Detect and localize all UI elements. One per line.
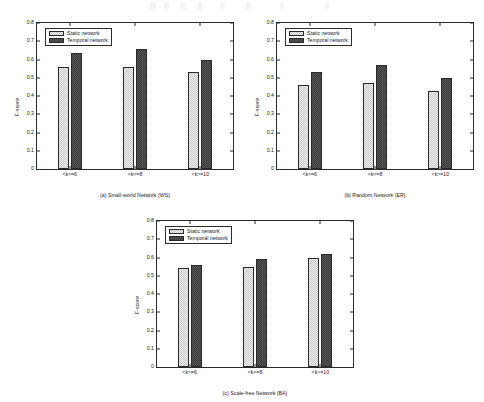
y-tick-label-c-2: 0.2 [147,328,157,333]
x-tick-label-a-0: <k>=6 [62,172,77,177]
subplot-caption-a: (a) Small-world Network (WS) [36,193,234,198]
subplot-c: F-score 00.10.20.30.40.50.60.70.8<k>=6<k… [128,212,360,398]
y-axis-label-a: F-score [14,98,20,116]
legend-item-static-b: Static network [289,31,348,36]
legend-label-temporal-c: Temporal network [187,236,228,241]
bar-c-temporal-1 [256,259,267,367]
plot-area-b: 00.10.20.30.40.50.60.70.8<k>=6<k>=8<k>=1… [276,22,474,170]
bar-a-temporal-2 [201,60,212,169]
x-tick-mark-top-a-2 [200,23,201,26]
y-tick-label-a-4: 0.4 [27,93,37,98]
y-tick-mark-a-8 [37,23,40,24]
x-tick-label-c-1: <k>=8 [248,370,263,375]
legend-label-static-c: Static network [187,229,220,234]
y-tick-label-a-0: 0 [31,166,37,171]
y-tick-label-b-8: 0.8 [267,20,277,25]
legend-item-temporal-a: Temporal network [49,38,108,43]
y-tick-label-b-3: 0.3 [267,112,277,117]
y-tick-mark-c-3 [157,312,160,313]
legend-swatch-temporal-c [169,236,184,241]
y-tick-mark-b-8 [277,23,280,24]
y-tick-mark-b-6 [277,59,280,60]
y-tick-mark-a-2 [37,132,40,133]
y-tick-label-c-4: 0.4 [147,291,157,296]
bar-c-static-1 [243,267,254,367]
legend-label-temporal-b: Temporal network [307,38,348,43]
y-tick-mark-a-3 [37,114,40,115]
y-tick-label-b-6: 0.6 [267,57,277,62]
legend-label-static-a: Static network [67,31,100,36]
y-tick-mark-b-7 [277,41,280,42]
y-tick-mark-a-5 [37,77,40,78]
y-tick-mark-c-1 [350,348,353,349]
bar-b-temporal-0 [311,72,322,169]
x-tick-mark-top-c-0 [189,221,190,224]
subplot-b: F-score 00.10.20.30.40.50.60.70.8<k>=6<k… [248,14,480,200]
x-tick-mark-a-1 [135,166,136,169]
legend-swatch-temporal-b [289,38,304,43]
y-tick-label-b-5: 0.5 [267,75,277,80]
y-tick-mark-a-6 [37,59,40,60]
y-tick-label-b-1: 0.1 [267,148,277,153]
y-tick-mark-b-4 [277,96,280,97]
y-tick-label-a-6: 0.6 [27,57,37,62]
bar-a-static-2 [188,72,199,169]
y-tick-mark-b-1 [470,150,473,151]
y-tick-mark-c-7 [157,239,160,240]
legend-a: Static networkTemporal network [45,28,112,46]
x-tick-label-a-1: <k>=8 [128,172,143,177]
y-tick-mark-b-6 [470,59,473,60]
plot-area-a: 00.10.20.30.40.50.60.70.8<k>=6<k>=8<k>=1… [36,22,234,170]
y-tick-label-b-2: 0.2 [267,130,277,135]
x-tick-mark-top-b-1 [375,23,376,26]
legend-item-temporal-c: Temporal network [169,236,228,241]
y-tick-label-c-5: 0.5 [147,273,157,278]
y-tick-mark-b-3 [470,114,473,115]
y-tick-mark-a-7 [230,41,233,42]
y-tick-label-c-7: 0.7 [147,237,157,242]
bar-b-static-2 [428,91,439,169]
y-tick-mark-a-1 [230,150,233,151]
y-tick-mark-a-7 [37,41,40,42]
legend-item-temporal-b: Temporal network [289,38,348,43]
x-tick-mark-b-1 [375,166,376,169]
bar-c-temporal-0 [191,265,202,367]
bar-c-static-2 [308,258,319,368]
y-tick-mark-b-4 [470,96,473,97]
x-tick-label-c-2: <k>=10 [312,370,329,375]
y-tick-mark-b-1 [277,150,280,151]
y-tick-label-a-7: 0.7 [27,39,37,44]
y-tick-mark-c-2 [157,330,160,331]
x-tick-mark-top-b-0 [309,23,310,26]
bar-a-temporal-0 [71,53,82,169]
y-tick-mark-b-8 [470,23,473,24]
x-tick-mark-c-0 [189,364,190,367]
bar-c-temporal-2 [321,254,332,367]
x-tick-mark-c-2 [320,364,321,367]
y-tick-mark-c-8 [157,221,160,222]
bar-b-temporal-1 [376,65,387,169]
y-tick-mark-a-5 [230,77,233,78]
subplot-caption-b: (b) Random Network (ER) [276,193,474,198]
y-tick-label-a-1: 0.1 [27,148,37,153]
figure-container: F-score 00.10.20.30.40.50.60.70.8<k>=6<k… [0,0,484,402]
y-tick-label-a-2: 0.2 [27,130,37,135]
x-tick-mark-top-a-0 [69,23,70,26]
x-tick-mark-b-2 [440,166,441,169]
y-tick-label-a-8: 0.8 [27,20,37,25]
y-tick-mark-a-1 [37,150,40,151]
subplot-caption-c: (c) Scale-free Network (BA) [156,391,354,396]
y-tick-mark-c-5 [350,275,353,276]
y-tick-mark-a-6 [230,59,233,60]
y-axis-label-c: F-score [134,296,140,314]
y-tick-mark-c-5 [157,275,160,276]
bar-a-temporal-1 [136,49,147,169]
y-tick-mark-a-8 [230,23,233,24]
x-tick-mark-a-0 [69,166,70,169]
y-tick-mark-a-4 [37,96,40,97]
x-tick-label-b-2: <k>=10 [432,172,449,177]
y-tick-mark-b-3 [277,114,280,115]
legend-label-temporal-a: Temporal network [67,38,108,43]
y-tick-label-c-0: 0 [151,364,157,369]
legend-swatch-static-a [49,31,64,36]
